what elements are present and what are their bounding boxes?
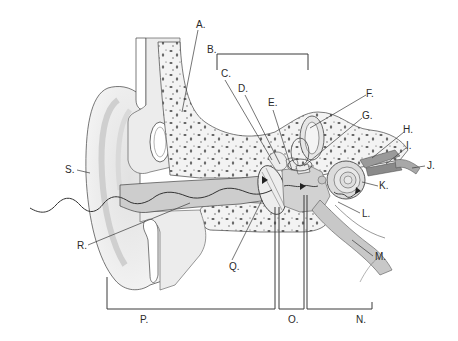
label-s: S.	[65, 165, 74, 175]
label-e: E.	[268, 98, 277, 108]
label-r: R.	[77, 241, 87, 251]
label-l: L.	[362, 209, 370, 219]
label-b: B.	[207, 45, 216, 55]
label-p: P.	[140, 315, 148, 325]
label-f: F.	[366, 89, 374, 99]
label-q: Q.	[229, 262, 240, 272]
label-n: N.	[356, 315, 366, 325]
label-a: A.	[196, 20, 205, 30]
lower-tissue	[140, 210, 206, 290]
label-o: O.	[288, 315, 299, 325]
eustachian-tube	[312, 200, 392, 282]
label-m: M.	[375, 252, 386, 262]
label-c: C.	[221, 69, 231, 79]
label-h: H.	[403, 125, 413, 135]
label-j: J.	[427, 161, 435, 171]
label-k: K.	[379, 181, 388, 191]
label-d: D.	[238, 84, 248, 94]
label-i: I.	[406, 141, 412, 151]
label-g: G.	[362, 111, 373, 121]
